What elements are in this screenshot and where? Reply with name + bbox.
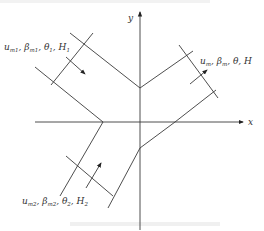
flow-arrow-tributary-1 xyxy=(66,57,85,74)
cropped-text-remnant-top xyxy=(0,0,210,3)
label-main-channel: um, βm, θ, H xyxy=(200,56,252,67)
inner-bank-upper xyxy=(70,33,193,88)
label-tributary-2: um2, βm2, θ2, H2 xyxy=(22,196,88,207)
transect-main-channel xyxy=(179,45,218,98)
figure-caption-remnant xyxy=(70,222,220,226)
confluence-diagram: x y um1, βm1, θ1, H1 um, βm, θ, H um2, β… xyxy=(0,0,264,231)
transect-tributary-2 xyxy=(66,156,113,196)
y-axis-label: y xyxy=(127,13,134,23)
transect-tributary-1 xyxy=(51,33,93,85)
x-axis-label: x xyxy=(248,117,253,127)
label-tributary-1: um1, βm1, θ1, H1 xyxy=(4,42,70,53)
inner-bank-right xyxy=(108,90,216,208)
